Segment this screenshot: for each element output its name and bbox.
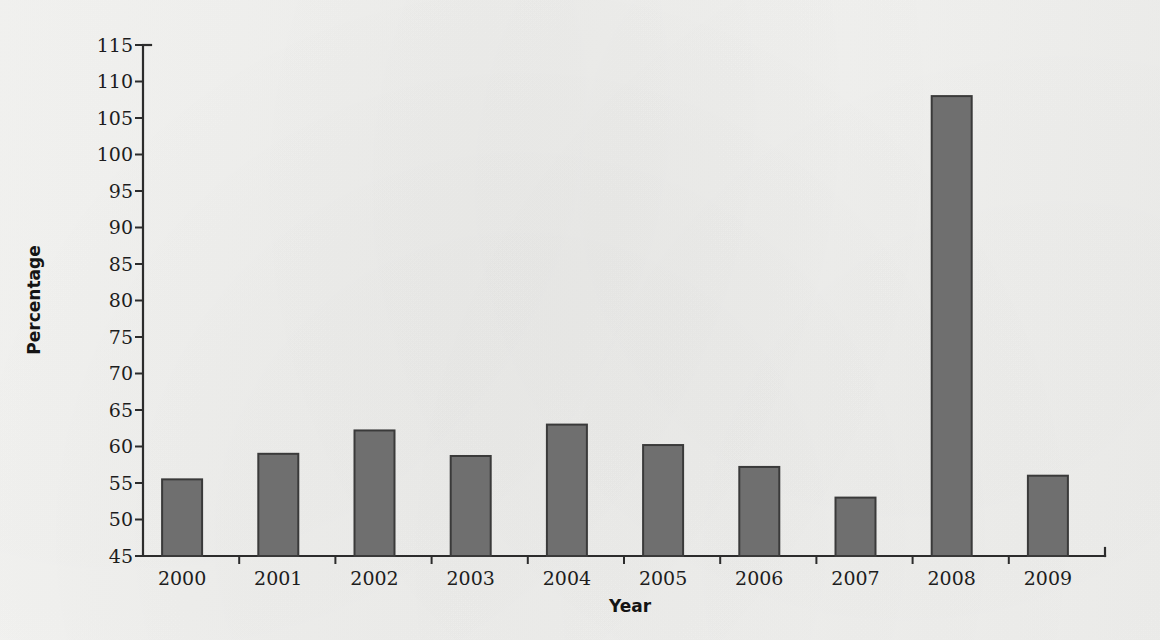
bar-2009 bbox=[1028, 476, 1068, 556]
bar-2002 bbox=[355, 430, 395, 556]
y-tick-label: 95 bbox=[109, 180, 133, 202]
bar-2006 bbox=[739, 467, 779, 556]
bar-chart-figure: Percentage Year 115 110 105 100 95 90 85… bbox=[0, 0, 1160, 640]
y-axis-title: Percentage bbox=[24, 245, 44, 354]
y-axis-ticks bbox=[135, 45, 143, 556]
y-tick-label: 110 bbox=[97, 70, 133, 92]
y-tick-label: 90 bbox=[109, 216, 133, 238]
bar-2008 bbox=[932, 96, 972, 556]
bar-chart-canvas: Percentage Year 115 110 105 100 95 90 85… bbox=[0, 0, 1160, 640]
y-axis-tick-labels: 115 110 105 100 95 90 85 80 75 70 65 60 … bbox=[97, 34, 133, 567]
x-tick-label: 2006 bbox=[735, 567, 783, 589]
y-tick-label: 75 bbox=[109, 326, 133, 348]
x-tick-label: 2000 bbox=[158, 567, 206, 589]
x-tick-label: 2003 bbox=[447, 567, 495, 589]
y-tick-label: 100 bbox=[97, 143, 133, 165]
x-tick-label: 2002 bbox=[350, 567, 398, 589]
x-tick-label: 2004 bbox=[543, 567, 591, 589]
bar-2000 bbox=[162, 479, 202, 556]
y-tick-label: 70 bbox=[109, 362, 133, 384]
x-tick-label: 2007 bbox=[831, 567, 879, 589]
x-axis-tick-labels: 2000 2001 2002 2003 2004 2005 2006 2007 … bbox=[158, 567, 1072, 589]
bar-2001 bbox=[258, 454, 298, 556]
x-tick-label: 2009 bbox=[1024, 567, 1072, 589]
y-tick-label: 80 bbox=[109, 289, 133, 311]
y-tick-label: 50 bbox=[109, 508, 133, 530]
bar-2007 bbox=[836, 498, 876, 556]
bar-2005 bbox=[643, 445, 683, 556]
bar-2004 bbox=[547, 425, 587, 556]
y-tick-label: 65 bbox=[109, 399, 133, 421]
x-tick-label: 2008 bbox=[928, 567, 976, 589]
x-axis-title: Year bbox=[608, 596, 652, 616]
y-tick-label: 115 bbox=[97, 34, 133, 56]
y-tick-label: 105 bbox=[97, 107, 133, 129]
y-tick-label: 60 bbox=[109, 435, 133, 457]
bar-2003 bbox=[451, 456, 491, 556]
x-tick-label: 2001 bbox=[254, 567, 302, 589]
y-tick-label: 55 bbox=[109, 472, 133, 494]
x-axis-ticks bbox=[239, 556, 1009, 564]
y-tick-label: 85 bbox=[109, 253, 133, 275]
x-tick-label: 2005 bbox=[639, 567, 687, 589]
y-tick-label: 45 bbox=[109, 545, 133, 567]
bar-series bbox=[162, 96, 1068, 556]
